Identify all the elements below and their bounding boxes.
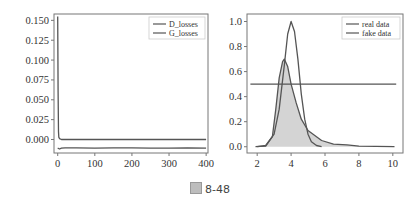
x-tick-label: 4	[288, 158, 294, 169]
y-tick-label: 0.025	[25, 114, 49, 125]
figure-label-icon	[190, 182, 202, 194]
figure-number: 8-48	[205, 183, 230, 196]
x-tick-label: 2	[255, 158, 260, 169]
y-tick-label: 0.075	[25, 74, 49, 85]
y-tick-label: 0.150	[25, 15, 49, 26]
x-tick-label: 300	[161, 158, 177, 169]
series-line-G_losses	[58, 148, 206, 149]
y-tick-label: 0.000	[25, 134, 49, 145]
legend-label: fake data	[362, 29, 392, 38]
figure: 01002003004000.0000.0250.0500.0750.1000.…	[0, 0, 420, 206]
y-tick-label: 1.0	[229, 16, 242, 27]
loss-chart: 01002003004000.0000.0250.0500.0750.1000.…	[25, 14, 214, 169]
x-tick-label: 8	[356, 158, 361, 169]
x-tick-label: 10	[388, 158, 399, 169]
legend: real datafake data	[342, 17, 400, 39]
y-tick-label: 0.2	[229, 116, 242, 127]
distribution-chart: 2468100.00.20.40.60.81.0real datafake da…	[229, 14, 403, 169]
x-tick-label: 6	[322, 158, 327, 169]
legend: D_lossesG_losses	[149, 17, 205, 39]
x-tick-label: 400	[198, 158, 214, 169]
x-tick-label: 200	[124, 158, 140, 169]
y-tick-label: 0.050	[25, 94, 49, 105]
legend-label: G_losses	[169, 29, 198, 38]
y-tick-label: 0.100	[25, 55, 49, 66]
legend-label: D_losses	[169, 20, 198, 29]
figure-caption: 8-48	[0, 182, 420, 196]
x-tick-label: 0	[55, 158, 60, 169]
x-tick-label: 100	[87, 158, 103, 169]
y-tick-label: 0.6	[229, 66, 242, 77]
y-tick-label: 0.125	[25, 35, 49, 46]
y-tick-label: 0.4	[229, 91, 243, 102]
y-tick-label: 0.8	[229, 41, 242, 52]
legend-label: real data	[362, 20, 390, 29]
y-tick-label: 0.0	[229, 141, 242, 152]
